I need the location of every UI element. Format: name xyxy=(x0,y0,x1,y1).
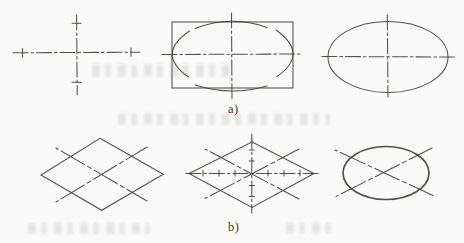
construction-rectangle xyxy=(172,22,293,88)
panel-isometric-ellipse xyxy=(335,147,433,200)
panel-rectangle-construction xyxy=(162,13,302,100)
scan-artifact xyxy=(118,113,330,125)
panel-finished-ellipse xyxy=(322,15,456,97)
panel-rhombus-diagonals xyxy=(41,138,163,210)
right-arc xyxy=(276,30,293,77)
panel-axes-cross xyxy=(13,15,140,95)
scan-artifact xyxy=(92,64,234,77)
panel-rhombus-centerlines xyxy=(186,134,318,213)
vertical-centerline xyxy=(387,15,388,97)
ellipse-outline xyxy=(343,147,429,200)
figure: a) b) xyxy=(0,0,464,243)
row-a-label: a) xyxy=(228,103,239,116)
row-b-label: b) xyxy=(228,221,239,234)
horizontal-centerline xyxy=(322,57,456,58)
vertical-centerline xyxy=(232,13,233,100)
scan-artifact xyxy=(286,223,332,233)
diagonal-line xyxy=(56,147,147,202)
scan-artifact xyxy=(28,223,150,234)
